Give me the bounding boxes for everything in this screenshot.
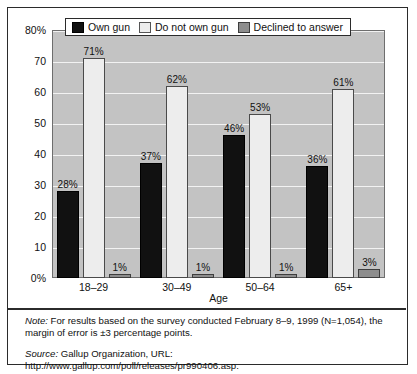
y-axis-tick-label: 10	[34, 242, 46, 252]
notes-section: Note: For results based on the survey co…	[25, 315, 389, 373]
y-axis-tick-label: 0%	[31, 273, 46, 283]
bar-value-label: 3%	[346, 258, 392, 268]
source-label: Source:	[25, 348, 58, 359]
bar[interactable]	[109, 274, 131, 278]
y-axis-tick-label: 40	[34, 149, 46, 159]
x-axis-tick-label: 50–64	[220, 282, 300, 293]
bar[interactable]	[332, 89, 354, 278]
bar[interactable]	[192, 274, 214, 278]
y-axis-tick-label: 50	[34, 118, 46, 128]
chart-figure: 0%1020304050607080% 28%71%1%37%62%1%46%5…	[7, 7, 408, 365]
chart-region: 0%1020304050607080% 28%71%1%37%62%1%46%5…	[8, 8, 406, 302]
bar-group: 36%61%3%	[302, 30, 385, 278]
section-divider	[8, 308, 406, 310]
bar[interactable]	[83, 58, 105, 278]
bar[interactable]	[223, 135, 245, 278]
bar-series-container: 28%71%1%37%62%1%46%53%1%36%61%3%	[52, 30, 385, 278]
legend-label: Own gun	[88, 21, 130, 33]
bar-value-label: 71%	[71, 47, 117, 57]
bar-group: 46%53%1%	[219, 30, 302, 278]
x-axis-tick-label: 65+	[303, 282, 383, 293]
chart-legend: Own gunDo not own gunDeclined to answer	[65, 18, 351, 36]
bar-value-label: 53%	[237, 103, 283, 113]
y-axis-tick-label: 70	[34, 56, 46, 66]
legend-swatch-own	[72, 22, 84, 33]
legend-item[interactable]: Own gun	[72, 21, 130, 33]
bar-group: 37%62%1%	[135, 30, 218, 278]
bar[interactable]	[166, 86, 188, 278]
source-line: Source: Gallup Organization, URL: http:/…	[25, 348, 389, 373]
bar[interactable]	[358, 269, 380, 278]
y-axis-tick-label: 60	[34, 87, 46, 97]
legend-label: Declined to answer	[254, 21, 343, 33]
y-axis-tick-label: 20	[34, 211, 46, 221]
x-axis-tick-label: 30–49	[137, 282, 217, 293]
legend-item[interactable]: Do not own gun	[139, 21, 229, 33]
legend-item[interactable]: Declined to answer	[238, 21, 343, 33]
bar-group: 28%71%1%	[52, 30, 135, 278]
y-axis: 0%1020304050607080%	[8, 8, 52, 302]
bar-value-label: 62%	[154, 75, 200, 85]
x-axis-tick-label: 18–29	[54, 282, 134, 293]
note-line: Note: For results based on the survey co…	[25, 315, 389, 340]
note-body: For results based on the survey conducte…	[25, 315, 383, 338]
y-axis-tick-label: 80%	[25, 25, 46, 35]
legend-swatch-declined	[238, 22, 250, 33]
bar[interactable]	[306, 166, 328, 278]
note-label: Note:	[25, 315, 48, 326]
bar[interactable]	[275, 274, 297, 278]
bar-value-label: 61%	[320, 78, 366, 88]
legend-swatch-notown	[139, 22, 151, 33]
bar[interactable]	[249, 114, 271, 278]
source-body: Gallup Organization, URL: http://www.gal…	[25, 348, 239, 371]
x-axis-title: Age	[52, 293, 385, 304]
bar[interactable]	[57, 191, 79, 278]
legend-label: Do not own gun	[155, 21, 229, 33]
bar[interactable]	[140, 163, 162, 278]
